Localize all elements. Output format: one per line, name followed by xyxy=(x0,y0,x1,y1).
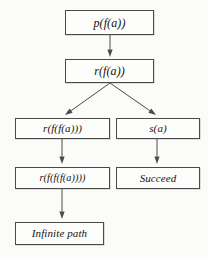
node-label: r(f(f(f(a)))) xyxy=(40,173,86,183)
node-succeed: Succeed xyxy=(116,167,200,189)
edge-r-f-a-to-s-a xyxy=(110,83,156,115)
node-s-a: s(a) xyxy=(116,118,200,139)
node-infinite-path: Infinite path xyxy=(15,222,104,245)
node-label: r(f(a)) xyxy=(94,65,125,77)
node-r-f-f-a: r(f(f(a))) xyxy=(15,118,110,139)
edge-s-a-to-succeed xyxy=(154,139,159,164)
arrowhead-icon xyxy=(148,109,156,115)
arrowhead-icon xyxy=(107,50,112,58)
node-label: r(f(f(a))) xyxy=(43,123,82,134)
edge-r-f-f-a-to-r-f-f-f-a xyxy=(59,139,64,164)
resolution-tree-diagram: p(f(a))r(f(a))r(f(f(a)))s(a)r(f(f(f(a)))… xyxy=(0,0,208,257)
edge-line xyxy=(110,83,150,111)
node-r-f-a: r(f(a)) xyxy=(65,59,154,83)
node-r-f-f-f-a: r(f(f(f(a)))) xyxy=(15,167,110,189)
arrowhead-icon xyxy=(154,157,159,165)
node-label: Infinite path xyxy=(32,228,87,239)
edge-line xyxy=(71,83,110,111)
node-label: p(f(a)) xyxy=(93,17,125,29)
arrowhead-icon xyxy=(65,109,73,115)
node-p-f-a: p(f(a)) xyxy=(65,10,154,35)
edge-r-f-a-to-r-f-f-a xyxy=(65,83,110,115)
edge-r-f-f-f-a-to-infinite-path xyxy=(59,189,64,219)
arrowhead-icon xyxy=(59,157,64,165)
arrowhead-icon xyxy=(59,212,64,220)
edge-p-f-a-to-r-f-a xyxy=(107,35,112,57)
node-label: s(a) xyxy=(149,123,167,134)
node-label: Succeed xyxy=(140,173,177,184)
